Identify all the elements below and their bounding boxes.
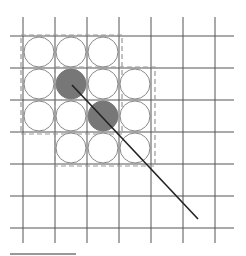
empty-circle [88,69,118,99]
empty-circle [120,69,150,99]
empty-circle [24,69,54,99]
filled-circle [88,101,118,131]
grid-diagram [0,0,246,256]
empty-circle [24,37,54,67]
empty-circle [88,133,118,163]
empty-circle [120,133,150,163]
empty-circle [88,37,118,67]
empty-circle [56,101,86,131]
empty-circle [24,101,54,131]
empty-circle [56,133,86,163]
empty-circle [120,101,150,131]
empty-circle [56,37,86,67]
